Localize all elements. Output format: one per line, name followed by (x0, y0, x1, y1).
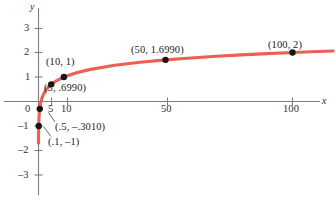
data-point (61, 74, 67, 80)
y-axis-label: y (30, 1, 35, 12)
y-tick-label-3: 3 (24, 22, 29, 33)
point-label-01-minus1: (.1, –1) (48, 136, 79, 147)
data-point (162, 57, 168, 63)
data-point (36, 123, 42, 129)
y-tick-label-minus-1: –1 (18, 120, 29, 131)
plot-canvas (0, 0, 336, 202)
x-axis-label: x (322, 95, 327, 106)
x-tick-label-10: 10 (61, 103, 72, 114)
y-tick-label-1: 1 (25, 71, 30, 82)
x-tick-label-0: 0 (25, 103, 30, 114)
y-tick-label-2: 2 (24, 46, 29, 57)
point-label-5-0699: (5, .6990) (44, 82, 86, 93)
y-tick-label-minus-2: –2 (18, 144, 29, 155)
leader-lines (44, 113, 56, 137)
point-label-05-03010: (.5, –.3010) (55, 121, 105, 132)
data-point (37, 106, 43, 112)
log-function-graph: y x 0 5 10 50 100 3 2 1 –1 –2 –3 (10, 1)… (0, 0, 336, 202)
point-label-100-2: (100, 2) (268, 39, 302, 50)
x-tick-label-50: 50 (161, 103, 172, 114)
x-tick-label-5: 5 (48, 103, 53, 114)
x-tick-label-100: 100 (283, 103, 299, 114)
y-tick-label-minus-3: –3 (18, 169, 29, 180)
data-point (289, 49, 295, 55)
point-label-10-1: (10, 1) (46, 56, 75, 67)
leader-line-p01 (44, 127, 52, 137)
point-label-50-1699: (50, 1.6990) (131, 44, 184, 55)
